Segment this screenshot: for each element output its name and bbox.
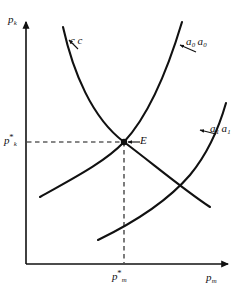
x-axis-label: pm <box>206 272 217 285</box>
x-axis-tick-label-p-m-star: p*m <box>112 269 127 283</box>
curve-label-a0a0: a0a0 <box>186 36 207 49</box>
y-axis-tick-label-p-k-star: p*k <box>4 133 17 147</box>
diagram-canvas <box>0 0 248 293</box>
curve-cc <box>63 27 210 207</box>
y-axis-label: pk <box>8 14 17 27</box>
equilibrium-point-label: E <box>140 135 147 146</box>
curve-label-cc: cc <box>70 35 82 46</box>
curve-label-a1a1: a1a1 <box>210 123 231 136</box>
label-leaders <box>69 40 216 142</box>
curves <box>40 22 226 240</box>
equilibrium-guides <box>27 142 124 263</box>
equilibrium-point-marker <box>121 139 127 145</box>
equilibrium-diagram: pk pm p*k p*m cc a0a0 a1a1 E <box>0 0 248 293</box>
